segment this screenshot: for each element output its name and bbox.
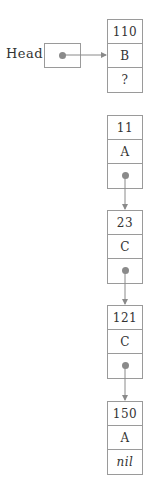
pointer-arrows — [0, 0, 154, 500]
